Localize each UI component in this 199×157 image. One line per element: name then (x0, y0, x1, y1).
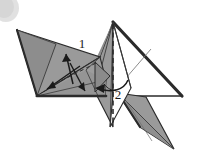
step-label-1: 1 (79, 36, 86, 51)
step-label-2: 2 (115, 87, 122, 102)
scan-smudge-artifact (0, 0, 19, 22)
tail-flap-gray-facet (118, 93, 174, 149)
left-wing-gray-facet (17, 30, 110, 96)
origami-figure: 1 2 (0, 0, 199, 157)
origami-diagram-canvas: 1 2 (0, 0, 199, 157)
